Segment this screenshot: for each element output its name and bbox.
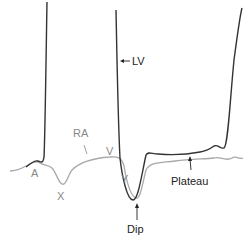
plateau-arrowhead-icon xyxy=(188,156,192,161)
lv-pressure-curve xyxy=(26,2,242,200)
lv-label: LV xyxy=(132,55,145,67)
dip-arrowhead-icon xyxy=(135,203,139,208)
ra-arrow xyxy=(84,145,87,154)
dip-label: Dip xyxy=(127,223,144,235)
ra-label: RA xyxy=(73,127,89,139)
v-wave-label: V xyxy=(106,145,114,157)
pressure-tracing-diagram: LV RA A X V Y Plateau Dip xyxy=(0,0,249,243)
y-descent-label: Y xyxy=(121,173,129,185)
a-wave-label: A xyxy=(31,167,39,179)
x-descent-label: X xyxy=(57,190,65,202)
plateau-label: Plateau xyxy=(171,175,208,187)
lv-arrowhead-icon xyxy=(120,59,124,63)
